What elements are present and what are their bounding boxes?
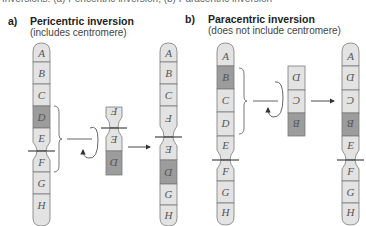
svg-text:H: H [346,206,356,218]
svg-text:E: E [37,132,45,144]
brace-icon [239,68,247,134]
svg-text:G: G [222,186,230,198]
svg-text:D: D [292,72,301,84]
svg-text:C: C [292,95,300,107]
svg-text:E: E [221,139,229,151]
brace-icon [54,106,62,172]
svg-text:B: B [38,67,45,79]
svg-text:F: F [37,156,45,168]
svg-text:B: B [165,67,172,79]
svg-text:F: F [221,165,229,177]
svg-text:B: B [222,71,229,83]
svg-text:B: B [293,118,300,130]
svg-text:H: H [221,206,231,218]
svg-text:C: C [165,89,173,101]
svg-text:F: F [165,113,173,125]
svg-text:D: D [164,167,173,179]
svg-text:F: F [346,165,354,177]
svg-text:A: A [221,50,229,62]
svg-text:G: G [38,177,46,189]
svg-text:A: A [346,50,354,62]
svg-text:D: D [346,72,355,84]
svg-text:B: B [347,118,354,130]
svg-text:E: E [110,134,118,146]
svg-text:D: D [221,117,230,129]
rotate-arrow-icon [83,127,98,158]
svg-text:E: E [165,144,173,156]
svg-text:G: G [347,186,355,198]
inversion-diagram: ABC DEF GH F E D ABC F E D GH [0,0,366,226]
svg-text:H: H [37,199,47,211]
svg-text:A: A [37,47,45,59]
svg-text:C: C [38,89,46,101]
svg-text:A: A [164,47,172,59]
rotate-arrow-icon [268,82,283,117]
svg-text:E: E [346,139,354,151]
svg-text:H: H [164,209,174,221]
svg-text:G: G [165,188,173,200]
svg-text:C: C [346,95,354,107]
svg-text:F: F [110,106,118,118]
svg-text:D: D [37,111,46,123]
svg-text:C: C [222,94,230,106]
svg-text:D: D [110,157,119,169]
